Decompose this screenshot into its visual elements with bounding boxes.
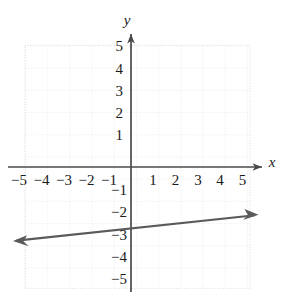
coordinate-plane-svg: y x −5 −4 −3 −2 −1 1 2 3 4 5 5 4 3 2 1 −… [0, 0, 285, 296]
y-tick-label-5: 5 [116, 38, 124, 54]
y-tick-label-neg3: −3 [111, 227, 127, 243]
y-tick-label-2: 2 [116, 105, 124, 121]
x-tick-label-neg2: −2 [79, 172, 95, 188]
y-tick-label-neg4: −4 [111, 249, 127, 265]
y-tick-label-neg2: −2 [111, 204, 127, 220]
y-tick-label-neg5: −5 [111, 271, 127, 287]
x-tick-label-neg3: −3 [56, 172, 72, 188]
x-tick-label-3: 3 [194, 172, 202, 188]
x-tick-label-neg5: −5 [11, 172, 27, 188]
graph-figure: y x −5 −4 −3 −2 −1 1 2 3 4 5 5 4 3 2 1 −… [0, 0, 285, 296]
y-axis-name: y [122, 12, 131, 28]
x-tick-label-1: 1 [149, 172, 157, 188]
y-tick-label-1: 1 [116, 127, 124, 143]
y-tick-label-3: 3 [116, 83, 124, 99]
x-tick-label-5: 5 [239, 172, 247, 188]
x-tick-label-neg4: −4 [34, 172, 50, 188]
x-tick-label-4: 4 [216, 172, 224, 188]
x-axis-name: x [268, 154, 276, 170]
y-tick-label-4: 4 [116, 61, 124, 77]
x-tick-label-2: 2 [172, 172, 180, 188]
y-tick-label-neg1: −1 [111, 182, 127, 198]
